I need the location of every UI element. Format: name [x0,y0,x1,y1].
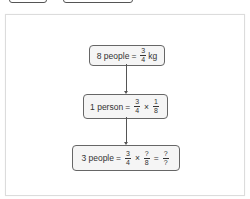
node-label: 8 people [97,51,130,61]
fraction: 3 4 [134,98,140,115]
numerator: 3 [125,150,131,159]
top-tab-2[interactable] [63,0,133,3]
arrow-line-1 [126,64,127,92]
equals-sign: = [131,51,136,61]
node-label: 3 people [81,153,114,163]
top-tab-1[interactable] [9,0,47,3]
node-label: 1 person [90,102,123,112]
denominator: 8 [154,107,158,115]
numerator: ? [144,150,150,159]
numerator: 1 [153,98,159,107]
fraction: 3 4 [125,150,131,167]
equals-sign: = [154,153,159,163]
denominator: ? [164,159,168,167]
numerator: 3 [140,47,146,56]
denominator: 4 [135,107,139,115]
arrow-line-2 [126,117,127,143]
denominator: 4 [141,56,145,64]
numerator: ? [163,150,169,159]
times-sign: × [135,153,140,163]
equals-sign: = [116,153,121,163]
node-3-people: 3 people = 3 4 × ? 8 = ? ? [72,145,180,171]
fraction: ? ? [163,150,169,167]
times-sign: × [144,102,149,112]
node-8-people: 8 people = 3 4 kg [89,45,165,66]
fraction: ? 8 [144,150,150,167]
denominator: 8 [145,159,149,167]
node-1-person: 1 person = 3 4 × 1 8 [83,94,168,119]
fraction: 3 4 [140,47,146,64]
fraction: 1 8 [153,98,159,115]
numerator: 3 [134,98,140,107]
equals-sign: = [125,102,130,112]
unit: kg [148,51,157,61]
denominator: 4 [126,159,130,167]
